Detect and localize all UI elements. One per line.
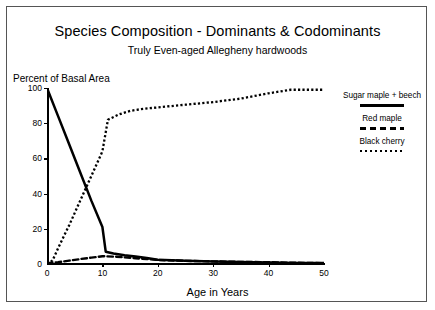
plot-area: [47, 88, 324, 264]
series-lines: [47, 88, 324, 264]
x-tick-label: 50: [312, 269, 336, 278]
legend-label: Red maple: [339, 114, 425, 124]
series-line: [47, 256, 324, 263]
legend-line-sample: [339, 102, 425, 109]
y-tick-label: 80: [12, 119, 42, 128]
x-axis-label: Age in Years: [7, 286, 428, 298]
y-tick-label: 0: [12, 260, 42, 269]
y-tick-label: 60: [12, 154, 42, 163]
legend-label: Black cherry: [339, 137, 425, 147]
legend-label: Sugar maple + beech: [339, 91, 425, 101]
x-tick-label: 30: [201, 269, 225, 278]
legend-line-sample: [339, 125, 425, 132]
legend-entry: Sugar maple + beech: [339, 91, 425, 109]
x-tick-label: 10: [90, 269, 114, 278]
chart-legend: Sugar maple + beechRed mapleBlack cherry: [339, 91, 425, 160]
y-tick-label: 100: [12, 84, 42, 93]
chart-figure: Species Composition - Dominants & Codomi…: [6, 6, 427, 302]
legend-entry: Red maple: [339, 114, 425, 132]
series-line: [47, 88, 324, 263]
x-tick-label: 20: [146, 269, 170, 278]
legend-entry: Black cherry: [339, 137, 425, 155]
series-line: [47, 90, 324, 264]
chart-title: Species Composition - Dominants & Codomi…: [7, 23, 428, 39]
chart-subtitle: Truly Even-aged Allegheny hardwoods: [7, 44, 428, 56]
x-tick-label: 0: [35, 269, 59, 278]
legend-line-sample: [339, 148, 425, 155]
y-tick-label: 40: [12, 190, 42, 199]
y-tick-label: 20: [12, 225, 42, 234]
x-tick-label: 40: [257, 269, 281, 278]
